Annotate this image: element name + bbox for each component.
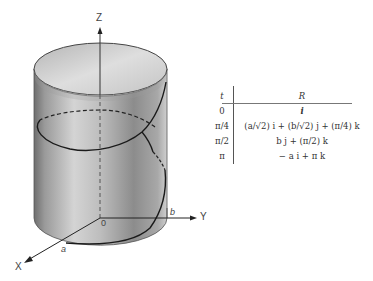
z-axis-arrow bbox=[98, 27, 103, 34]
header-R: R bbox=[236, 92, 368, 101]
origin-label: 0 bbox=[101, 219, 106, 228]
header-t: t bbox=[212, 92, 232, 101]
row-2-t: π/2 bbox=[212, 137, 232, 146]
b-label: b bbox=[170, 208, 175, 217]
z-axis-label: Z bbox=[96, 13, 102, 23]
a-label: a bbox=[61, 245, 66, 254]
y-axis-label: Y bbox=[200, 212, 207, 222]
row-3-t: π bbox=[212, 152, 232, 161]
row-2-R: b j + (π/2) k bbox=[236, 137, 368, 146]
row-1-R: (a/√2) i + (b/√2) j + (π/4) k bbox=[236, 122, 368, 131]
table-vertical-rule bbox=[233, 86, 234, 164]
y-axis-arrow bbox=[190, 216, 197, 221]
x-axis-label: X bbox=[15, 262, 22, 272]
table-header-rule bbox=[222, 103, 352, 104]
row-0-t: 0 bbox=[212, 107, 232, 116]
row-0-R: i bbox=[236, 107, 368, 116]
position-vector-table: t R 0 i π/4 (a/√2) i + (b/√2) j + (π/4) … bbox=[212, 86, 372, 166]
x-axis-arrow bbox=[24, 256, 33, 263]
row-1-t: π/4 bbox=[212, 122, 232, 131]
row-3-R: − a i + π k bbox=[236, 152, 368, 161]
